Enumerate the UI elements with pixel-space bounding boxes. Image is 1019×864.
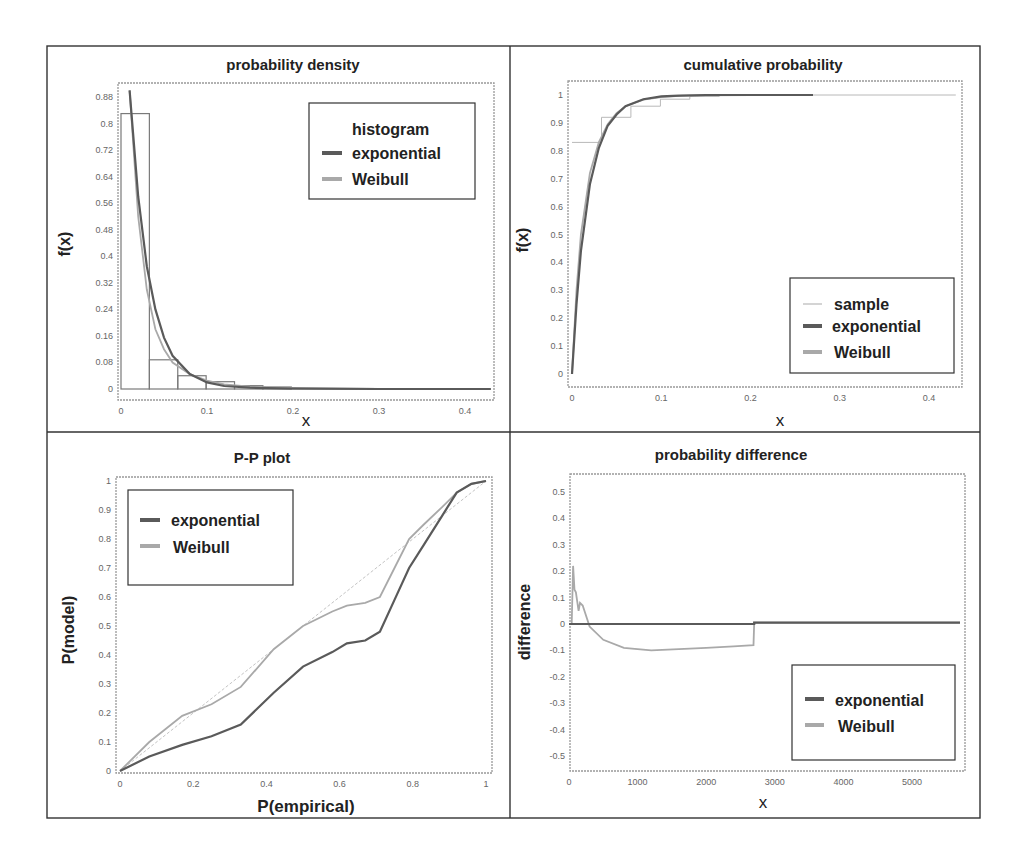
y-tick-label: 1 bbox=[558, 90, 563, 100]
y-axis-label: f(x) bbox=[514, 228, 531, 253]
x-axis-label: P(empirical) bbox=[257, 797, 354, 816]
x-tick-label: 0 bbox=[566, 777, 571, 787]
legend-label-exponential: exponential bbox=[352, 145, 441, 162]
x-tick-label: 2000 bbox=[696, 777, 716, 787]
panel-probability-difference: probability difference 0.50.40.30.20.10-… bbox=[516, 446, 965, 812]
sample-step-line bbox=[572, 95, 956, 142]
x-tick-label: 0.1 bbox=[655, 393, 668, 403]
y-axis-ticks: 0.50.40.30.20.10-0.1-0.2-0.3-0.4-0.5 bbox=[549, 487, 565, 761]
x-tick-label: 0 bbox=[569, 393, 574, 403]
panel-pp-plot: P-P plot 00.10.20.30.40.50.60.70.80.91 0… bbox=[60, 449, 492, 816]
x-axis-ticks: 00.10.20.30.4 bbox=[118, 406, 471, 416]
panel-probability-density: probability density 00.080.160.240.320.4… bbox=[56, 56, 494, 430]
y-tick-label: 0.64 bbox=[95, 172, 113, 182]
legend-label-histogram: histogram bbox=[352, 121, 429, 138]
legend-label-weibull: Weibull bbox=[838, 718, 895, 735]
y-tick-label: 0.5 bbox=[552, 487, 565, 497]
x-axis-label: x bbox=[776, 411, 785, 430]
x-axis-label: x bbox=[302, 411, 311, 430]
legend: sample exponential Weibull bbox=[790, 278, 954, 373]
legend-label-sample: sample bbox=[834, 296, 889, 313]
y-tick-label: 0.8 bbox=[550, 146, 563, 156]
x-tick-label: 0.3 bbox=[373, 406, 386, 416]
x-axis-ticks: 00.10.20.30.4 bbox=[569, 393, 935, 403]
chart-title: P-P plot bbox=[234, 449, 290, 466]
y-tick-label: 0.4 bbox=[550, 257, 563, 267]
y-tick-label: 0.2 bbox=[98, 708, 111, 718]
y-tick-label: 0 bbox=[558, 369, 563, 379]
y-tick-label: 0.32 bbox=[95, 278, 113, 288]
y-tick-label: 0.4 bbox=[100, 251, 113, 261]
y-tick-label: 0.08 bbox=[95, 357, 113, 367]
histogram-bars bbox=[121, 114, 291, 389]
y-tick-label: 0.3 bbox=[550, 285, 563, 295]
y-tick-label: 0.6 bbox=[550, 202, 563, 212]
legend-label-exponential: exponential bbox=[171, 512, 260, 529]
exponential-curve bbox=[569, 623, 960, 624]
legend: exponential Weibull bbox=[128, 490, 293, 585]
legend-label-weibull: Weibull bbox=[834, 344, 891, 361]
legend-label-weibull: Weibull bbox=[173, 539, 230, 556]
y-tick-label: 0.56 bbox=[95, 198, 113, 208]
legend: exponential Weibull bbox=[792, 665, 955, 760]
figure-grid: probability density 00.080.160.240.320.4… bbox=[0, 0, 1019, 864]
x-tick-label: 0 bbox=[117, 779, 122, 789]
panel-cumulative-probability: cumulative probability 00.10.20.30.40.50… bbox=[514, 56, 962, 430]
chart-title: probability density bbox=[226, 56, 360, 73]
y-axis-ticks: 00.10.20.30.40.50.60.70.80.91 bbox=[550, 90, 563, 379]
x-tick-label: 0.4 bbox=[260, 779, 273, 789]
y-tick-label: 0.1 bbox=[550, 341, 563, 351]
y-tick-label: 0.4 bbox=[552, 513, 565, 523]
y-tick-label: -0.4 bbox=[549, 725, 565, 735]
y-tick-label: 0 bbox=[108, 384, 113, 394]
y-tick-label: 0.2 bbox=[552, 566, 565, 576]
x-tick-label: 5000 bbox=[902, 777, 922, 787]
x-tick-label: 0.2 bbox=[187, 779, 200, 789]
legend-label-exponential: exponential bbox=[832, 318, 921, 335]
chart-title: cumulative probability bbox=[683, 56, 843, 73]
x-tick-label: 0.2 bbox=[287, 406, 300, 416]
y-tick-label: 0.9 bbox=[550, 118, 563, 128]
y-tick-label: 0.7 bbox=[98, 563, 111, 573]
y-tick-label: 0.7 bbox=[550, 174, 563, 184]
y-tick-label: 0.88 bbox=[95, 92, 113, 102]
x-tick-label: 4000 bbox=[833, 777, 853, 787]
x-axis-ticks: 010002000300040005000 bbox=[566, 777, 922, 787]
y-tick-label: 1 bbox=[106, 476, 111, 486]
y-tick-label: 0.3 bbox=[98, 679, 111, 689]
x-tick-label: 0.3 bbox=[833, 393, 846, 403]
x-tick-label: 3000 bbox=[765, 777, 785, 787]
y-axis-label: difference bbox=[516, 584, 533, 661]
y-tick-label: 0.5 bbox=[98, 621, 111, 631]
weibull-curve bbox=[572, 566, 960, 651]
y-tick-label: 0.5 bbox=[550, 230, 563, 240]
chart-title: probability difference bbox=[655, 446, 808, 463]
y-tick-label: 0.2 bbox=[550, 313, 563, 323]
legend: histogram exponential Weibull bbox=[309, 103, 475, 199]
y-axis-ticks: 00.080.160.240.320.40.480.560.640.720.80… bbox=[95, 92, 113, 394]
legend-label-weibull: Weibull bbox=[352, 171, 409, 188]
x-tick-label: 1 bbox=[483, 779, 488, 789]
legend-label-exponential: exponential bbox=[835, 692, 924, 709]
y-tick-label: 0.4 bbox=[98, 650, 111, 660]
x-tick-label: 0.8 bbox=[407, 779, 420, 789]
y-tick-label: 0.16 bbox=[95, 331, 113, 341]
y-tick-label: -0.5 bbox=[549, 751, 565, 761]
x-tick-label: 0.6 bbox=[333, 779, 346, 789]
y-tick-label: 0.9 bbox=[98, 505, 111, 515]
y-tick-label: 0.1 bbox=[552, 593, 565, 603]
y-tick-label: 0 bbox=[106, 766, 111, 776]
y-tick-label: -0.3 bbox=[549, 698, 565, 708]
y-tick-label: 0.72 bbox=[95, 145, 113, 155]
y-axis-label: f(x) bbox=[56, 232, 73, 257]
weibull-curve bbox=[572, 95, 813, 374]
x-axis-ticks: 00.20.40.60.81 bbox=[117, 779, 488, 789]
y-axis-label: P(model) bbox=[60, 596, 77, 664]
y-tick-label: 0.8 bbox=[98, 534, 111, 544]
y-axis-ticks: 00.10.20.30.40.50.60.70.80.91 bbox=[98, 476, 111, 776]
x-tick-label: 0.4 bbox=[459, 406, 472, 416]
x-tick-label: 1000 bbox=[628, 777, 648, 787]
x-tick-label: 0.4 bbox=[923, 393, 936, 403]
y-tick-label: 0.1 bbox=[98, 737, 111, 747]
legend-box bbox=[792, 665, 955, 760]
